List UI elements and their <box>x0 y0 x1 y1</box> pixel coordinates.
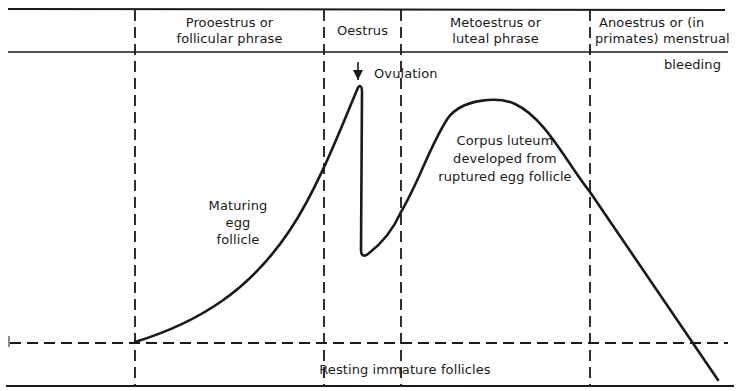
corpus-luteum-label: Corpus luteum developed from ruptured eg… <box>430 132 580 186</box>
resting-follicles-label: Resting immature follicles <box>290 362 520 378</box>
ovulation-drop-curve <box>357 86 401 256</box>
phase-label-prooestrus: Prooestrus or follicular phrase <box>135 15 324 47</box>
top-border-line <box>8 9 725 10</box>
maturing-follicle-label: Maturing egg follicle <box>198 197 278 248</box>
phase-label-oestrus: Oestrus <box>324 23 401 39</box>
oestrous-cycle-diagram: Prooestrus or follicular phrase Oestrus … <box>0 0 738 391</box>
phase-label-anoestrus: Anoestrus or (in primates) menstrual ble… <box>593 15 735 73</box>
ovulation-arrow-icon <box>353 62 363 80</box>
phase-label-metoestrus: Metoestrus or luteal phrase <box>401 15 590 47</box>
ovulation-label: Ovulation <box>374 66 438 82</box>
